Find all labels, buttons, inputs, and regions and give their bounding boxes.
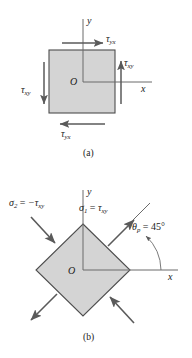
axis-x-label-a: x (141, 83, 145, 94)
theta-angle-arc (146, 236, 161, 270)
theta-p-label: θp = 45° (132, 221, 165, 233)
shear-label-top: τyx (106, 33, 116, 45)
caption-panel-b: (b) (83, 332, 94, 342)
axis-y-label-b: y (87, 186, 91, 197)
stress-element-figure: y x O τyx τyx τxy τxy (a) y x O σ2 = −τx… (0, 0, 192, 358)
axis-y-label-a: y (87, 15, 91, 26)
sigma1-arrow-upper-right (108, 220, 134, 246)
axis-x-label-b: x (168, 271, 172, 282)
sigma2-label: σ2 = −τxy (9, 197, 44, 209)
sigma1-arrow-lower-left (31, 294, 57, 320)
sigma2-arrow-lower-right (110, 297, 134, 323)
shear-label-left: τxy (21, 84, 31, 96)
origin-label-a: O (70, 76, 77, 87)
theta-reference-line (133, 203, 150, 220)
shear-label-bottom: τyx (61, 128, 71, 140)
sigma1-label: σ1 = τxy (79, 202, 108, 214)
sigma2-arrow-upper-left (31, 217, 55, 243)
shear-label-right: τxy (124, 57, 134, 69)
caption-panel-a: (a) (83, 148, 94, 158)
figure-canvas (0, 0, 192, 358)
origin-label-b: O (68, 265, 75, 276)
panel-a-graphics (44, 19, 152, 124)
